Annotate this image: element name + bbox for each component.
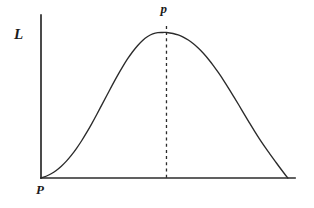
circumflex-accent-icon: ˆ	[161, 0, 165, 8]
x-axis-origin-label: P	[36, 183, 44, 196]
axes-group	[41, 15, 295, 178]
plot-area	[0, 0, 314, 208]
likelihood-curve	[41, 32, 288, 178]
mle-estimate-label: ˆp	[160, 2, 167, 15]
likelihood-function-figure: L P ˆp	[0, 0, 314, 208]
y-axis-label: L	[14, 27, 23, 42]
